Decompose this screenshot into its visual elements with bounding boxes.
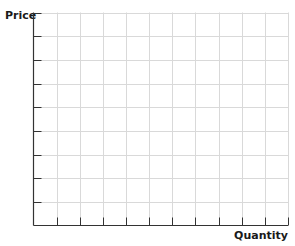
chart-plot-area (0, 0, 295, 246)
